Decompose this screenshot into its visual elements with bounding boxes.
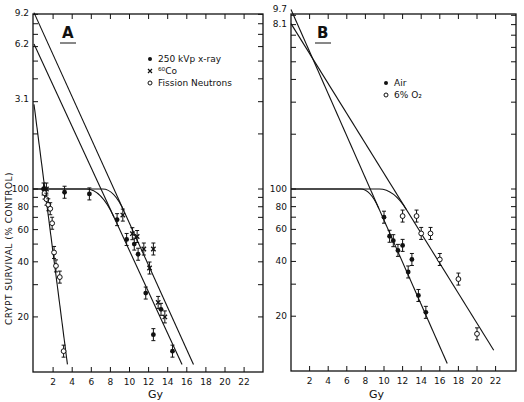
panel-b-shoulder-curve <box>291 189 406 210</box>
panel-b-x-tick-label: 12 <box>397 376 408 386</box>
panel-a-x-tick-label: 10 <box>124 377 136 387</box>
panel-a-frame <box>33 14 263 372</box>
panel-b-x-tick-label: 16 <box>434 376 446 386</box>
panel-a-extrapolation-label: 3.1 <box>15 94 29 104</box>
panel-a-x-tick-label: 8 <box>108 377 114 387</box>
panel-a-point-open <box>50 221 55 226</box>
panel-a-point-open <box>61 349 66 354</box>
panel-b-point-open <box>419 231 424 236</box>
survival-curves-figure: 246810121416182022 204060801003.16.29.2 … <box>0 0 524 402</box>
panel-b-x-tick-label: 10 <box>378 376 390 386</box>
panel-b-legend-label: 6% O₂ <box>394 90 422 100</box>
panel-a-point-filled <box>159 307 164 312</box>
panel-b-y-tick-label: 40 <box>276 256 288 266</box>
panel-b-point-filled <box>406 270 411 275</box>
panel-a-fit-line <box>34 44 182 364</box>
panel-a-y-tick-label: 60 <box>18 225 30 235</box>
panel-a-point-filled <box>124 237 129 242</box>
panel-a-point-open <box>54 263 59 268</box>
panel-a-x-tick-label: 16 <box>181 377 193 387</box>
panel-b-xlabel: Gy <box>369 388 385 401</box>
panel-b-x-tick-label: 14 <box>415 376 427 386</box>
panel-a-x-tick-label: 18 <box>200 377 212 387</box>
panel-b-point-open <box>456 277 461 282</box>
panel-a-legend-label: ⁶⁰Co <box>158 66 178 76</box>
panel-a-point-filled <box>87 192 92 197</box>
panel-a-x-ticks: 246810121416182022 <box>50 14 250 387</box>
panel-b-legend-label: Air <box>394 78 407 88</box>
panel-a-point-filled <box>151 332 156 337</box>
panel-a-y-tick-label: 40 <box>18 257 30 267</box>
panel-a-point-open <box>48 206 53 211</box>
panel-b-frame <box>291 14 516 371</box>
panel-a-xlabel: Gy <box>148 388 164 401</box>
panel-a-legend-label: Fission Neutrons <box>158 78 232 88</box>
panel-a-points <box>41 183 175 357</box>
panel-b-fit-line <box>291 24 494 351</box>
panel-a-fit-line <box>34 104 67 364</box>
panel-b-x-tick-label: 18 <box>453 376 465 386</box>
panel-b-legend-marker-filled <box>384 81 388 85</box>
panel-b-letter: B <box>317 24 328 42</box>
panel-b-y-ticks: 204060801008.19.7 <box>270 4 516 321</box>
panel-b-point-open <box>428 231 433 236</box>
panel-a-x-tick-label: 6 <box>88 377 94 387</box>
panel-a-y-tick-label: 20 <box>18 312 30 322</box>
panel-b-points <box>382 210 480 340</box>
panel-b: 246810121416182022 204060801008.19.7 B G… <box>270 4 516 401</box>
panel-a-point-open <box>52 250 57 255</box>
panel-a-legend: 250 kVp x-ray⁶⁰CoFission Neutrons <box>148 54 232 88</box>
panel-b-y-tick-label: 60 <box>276 224 288 234</box>
panel-b-point-filled <box>387 234 392 239</box>
panel-a-legend-marker-cross <box>148 69 152 73</box>
panel-b-legend-marker-open <box>384 93 388 97</box>
panel-b-point-filled <box>416 293 421 298</box>
panel-b-x-tick-label: 20 <box>471 376 483 386</box>
panel-a-x-tick-label: 4 <box>69 377 75 387</box>
panel-a-ylabel: CRYPT SURVIVAL (% CONTROL) <box>4 172 14 325</box>
panel-b-legend: Air6% O₂ <box>384 78 422 100</box>
panel-b-point-open <box>437 257 442 262</box>
panel-a-point-filled <box>136 252 141 257</box>
panel-a-x-tick-label: 14 <box>162 377 174 387</box>
panel-b-point-open <box>414 214 419 219</box>
panel-b-x-tick-label: 6 <box>344 376 350 386</box>
panel-b-shoulder-curve <box>291 189 379 208</box>
panel-b-y-tick-label: 80 <box>276 202 288 212</box>
panel-a-x-tick-label: 22 <box>238 377 249 387</box>
panel-b-y-tick-label: 100 <box>270 184 287 194</box>
panel-b-x-ticks: 246810121416182022 <box>307 14 502 386</box>
panel-a-point-filled <box>143 291 148 296</box>
panel-a-x-tick-label: 2 <box>50 377 56 387</box>
panel-a-legend-marker-open <box>148 81 152 85</box>
panel-a-x-tick-label: 20 <box>219 377 231 387</box>
panel-a-y-ticks: 204060801003.16.29.2 <box>12 8 263 322</box>
panel-b-point-filled <box>423 310 428 315</box>
panel-b-point-open <box>475 331 480 336</box>
panel-a-point-filled <box>62 190 67 195</box>
panel-b-fit-line <box>291 9 447 363</box>
panel-a-letter: A <box>62 24 74 42</box>
panel-a-y-tick-label: 80 <box>18 202 30 212</box>
panel-b-x-tick-label: 8 <box>363 376 369 386</box>
panel-a-y-tick-label: 100 <box>12 184 29 194</box>
panel-a-point-filled <box>170 349 175 354</box>
panel-a-point-filled <box>115 217 120 222</box>
panel-b-point-filled <box>391 238 396 243</box>
panel-b-fit-lines <box>291 9 494 363</box>
panel-b-y-tick-label: 20 <box>276 311 288 321</box>
panel-b-point-open <box>400 214 405 219</box>
panel-a-x-tick-label: 12 <box>143 377 154 387</box>
panel-b-x-tick-label: 4 <box>325 376 331 386</box>
panel-a-point-open <box>57 275 62 280</box>
panel-a-extrapolation-label: 9.2 <box>15 8 29 18</box>
panel-b-x-tick-label: 22 <box>490 376 501 386</box>
panel-b-point-filled <box>400 243 405 248</box>
panel-a-extrapolation-label: 6.2 <box>15 39 29 49</box>
panel-b-x-tick-label: 2 <box>307 376 313 386</box>
panel-a-legend-marker-filled <box>148 57 152 61</box>
panel-a-legend-label: 250 kVp x-ray <box>158 54 222 64</box>
panel-b-extrapolation-label: 8.1 <box>273 19 287 29</box>
panel-b-point-filled <box>396 248 401 253</box>
panel-a: 246810121416182022 204060801003.16.29.2 … <box>4 8 263 401</box>
